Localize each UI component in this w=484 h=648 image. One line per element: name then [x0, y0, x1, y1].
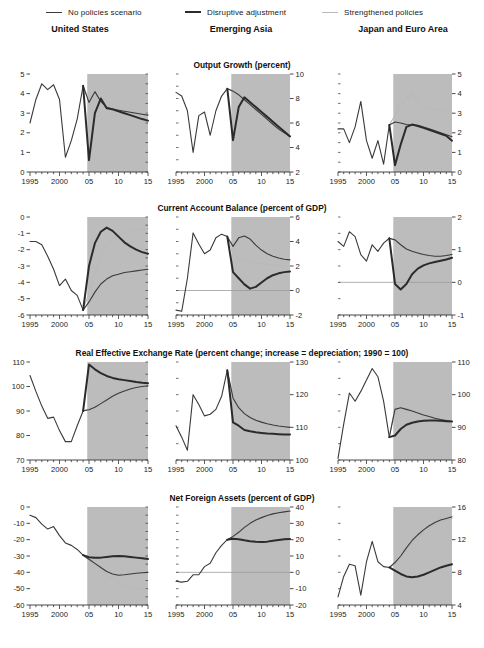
- y-tick-label: -10: [14, 519, 25, 528]
- x-tick-label: 2000: [196, 610, 213, 619]
- series-line: [176, 370, 227, 450]
- y-tick-label: 110: [458, 358, 470, 367]
- column-header-japan-and-euro-area: Japan and Euro Area: [322, 24, 484, 34]
- x-tick-label: 1995: [330, 465, 347, 474]
- y-tick-label: 8: [296, 94, 300, 103]
- legend-swatch-strengthened-policies: [322, 12, 338, 13]
- legend-item-strengthened-policies: Strengthened policies: [322, 4, 423, 20]
- y-tick-label: 3: [458, 109, 462, 118]
- x-tick-label: 1995: [168, 177, 185, 186]
- column-header-united-states: United States: [0, 24, 160, 34]
- y-tick-label: 100: [12, 382, 25, 391]
- x-tick-label: 2000: [196, 177, 213, 186]
- y-tick-label: 0: [20, 213, 24, 222]
- y-tick-label: 4: [458, 89, 462, 98]
- x-tick-label: 10: [257, 177, 265, 186]
- y-tick-label: -2: [296, 311, 303, 320]
- x-tick-label: 1995: [22, 610, 39, 619]
- y-tick-label: 2: [296, 262, 300, 271]
- legend: No policies scenario Disruptive adjustme…: [0, 4, 484, 20]
- forecast-shading: [393, 362, 452, 460]
- x-tick-label: 2000: [51, 177, 68, 186]
- x-tick-label: 10: [114, 610, 122, 619]
- legend-item-no-policies: No policies scenario: [46, 4, 142, 20]
- y-tick-label: 0: [296, 286, 300, 295]
- forecast-shading: [231, 74, 290, 172]
- chart-panel-jpn-euro-reer: 809010011019952000051015: [322, 356, 484, 474]
- forecast-shading: [87, 362, 148, 460]
- y-tick-label: 0: [458, 168, 462, 177]
- y-tick-label: 6: [296, 213, 300, 222]
- x-tick-label: 05: [391, 465, 399, 474]
- x-tick-label: 15: [448, 320, 456, 329]
- y-tick-label: -50: [14, 584, 25, 593]
- x-tick-label: 05: [391, 610, 399, 619]
- y-tick-label: 10: [296, 70, 304, 79]
- legend-label-no-policies: No policies scenario: [68, 8, 142, 17]
- x-tick-label: 2000: [358, 610, 375, 619]
- x-tick-label: 1995: [330, 177, 347, 186]
- x-tick-label: 1995: [168, 320, 185, 329]
- y-tick-label: 80: [16, 431, 24, 440]
- legend-swatch-no-policies: [46, 12, 62, 13]
- series-line: [30, 242, 83, 311]
- x-tick-label: 2000: [358, 465, 375, 474]
- y-tick-label: -30: [14, 552, 25, 561]
- series-line: [176, 233, 227, 311]
- x-tick-label: 10: [114, 177, 122, 186]
- x-tick-label: 10: [419, 465, 427, 474]
- x-tick-label: 15: [144, 610, 152, 619]
- x-tick-label: 15: [144, 177, 152, 186]
- x-tick-label: 1995: [330, 610, 347, 619]
- y-tick-label: -2: [18, 245, 25, 254]
- y-tick-label: 4: [296, 143, 300, 152]
- chart-panel-us-current-account: -6-5-4-3-2-1019952000051015: [0, 211, 160, 329]
- x-tick-label: 05: [85, 465, 93, 474]
- x-tick-label: 1995: [168, 465, 185, 474]
- x-tick-label: 1995: [22, 177, 39, 186]
- chart-panel-jpn-euro-current-account: -101219952000051015: [322, 211, 484, 329]
- x-tick-label: 2000: [196, 465, 213, 474]
- y-tick-label: -60: [14, 601, 25, 610]
- y-tick-label: -20: [14, 535, 25, 544]
- y-tick-label: 16: [458, 503, 466, 512]
- x-tick-label: 05: [229, 177, 237, 186]
- y-tick-label: 20: [296, 535, 304, 544]
- y-tick-label: 130: [296, 358, 309, 367]
- x-tick-label: 05: [85, 610, 93, 619]
- x-tick-label: 15: [448, 177, 456, 186]
- y-tick-label: 5: [458, 70, 462, 79]
- x-tick-label: 15: [144, 465, 152, 474]
- series-line: [338, 369, 389, 459]
- series-line: [176, 540, 227, 582]
- x-tick-label: 15: [286, 465, 294, 474]
- x-tick-label: 05: [391, 177, 399, 186]
- x-tick-label: 10: [419, 177, 427, 186]
- x-tick-label: 2000: [51, 465, 68, 474]
- x-tick-label: 05: [229, 465, 237, 474]
- x-tick-label: 15: [448, 465, 456, 474]
- y-tick-label: 120: [296, 390, 309, 399]
- y-tick-label: 90: [16, 407, 24, 416]
- y-tick-label: -20: [296, 601, 307, 610]
- x-tick-label: 2000: [358, 177, 375, 186]
- x-tick-label: 10: [257, 465, 265, 474]
- y-tick-label: -4: [18, 278, 25, 287]
- legend-item-disruptive-adjustment: Disruptive adjustment: [185, 4, 286, 20]
- forecast-shading: [231, 507, 290, 605]
- x-tick-label: 2000: [51, 610, 68, 619]
- y-tick-label: 1: [458, 148, 462, 157]
- y-tick-label: 0: [20, 503, 24, 512]
- y-tick-label: 4: [458, 601, 462, 610]
- y-tick-label: 40: [296, 503, 304, 512]
- y-tick-label: 2: [458, 213, 462, 222]
- x-tick-label: 05: [229, 610, 237, 619]
- forecast-shading: [87, 217, 148, 315]
- x-tick-label: 1995: [330, 320, 347, 329]
- y-tick-label: 110: [296, 423, 308, 432]
- chart-panel-asia-reer: 10011012013019952000051015: [160, 356, 322, 474]
- x-tick-label: 10: [114, 465, 122, 474]
- y-tick-label: 90: [458, 423, 466, 432]
- figure-root: No policies scenario Disruptive adjustme…: [0, 0, 484, 648]
- x-tick-label: 2000: [51, 320, 68, 329]
